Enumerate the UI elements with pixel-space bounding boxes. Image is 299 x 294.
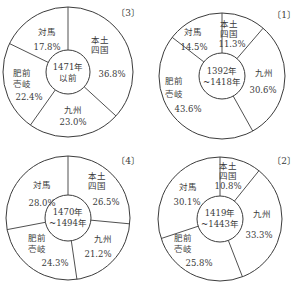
slice-value-hizen-iki: 43.6% [174,104,201,114]
slice-label-honshu-shikoku: 本土 [219,161,237,171]
slice-value-tsushima: 30.1% [173,197,200,207]
slice-label-hizen-iki: 肥前 [13,68,31,78]
slice-value-kyushu: 23.0% [59,117,86,127]
panel-label: 〔4〕 [116,156,140,166]
donut-inner-ring [199,53,245,99]
center-label-line1: 1392年 [207,66,238,76]
center-label-line2: ~1443年 [201,219,239,229]
panel-label: 〔3〕 [116,8,140,18]
center-label-line1: 1419年 [205,208,236,218]
slice-value-tsushima: 28.0% [28,198,55,208]
donut-chart-grid: 〔3〕 1471年 以前 本土 四国 36.8% 九州 23.0% 肥前 壱岐 … [0,0,299,294]
center-label-line1: 1471年 [53,62,84,72]
slice-label-tsushima: 対馬 [33,180,51,190]
slice-label-hizen-iki-2: 壱岐 [13,79,31,89]
slice-label-hizen-iki: 肥前 [174,233,192,243]
slice-label-tsushima: 対馬 [38,27,56,37]
slice-divider [7,222,45,229]
chart-panel-4: 〔4〕 1470年 ~1494年 本土 四国 26.5% 九州 21.2% 肥前… [6,156,140,280]
center-label-line1: 1470年 [53,207,84,217]
slice-label-honshu-shikoku-2: 四国 [88,181,106,191]
slice-label-honshu-shikoku-2: 四国 [220,29,238,39]
center-label-line2: ~1494年 [49,218,87,228]
slice-value-honshu-shikoku: 11.3% [218,39,245,49]
slice-label-honshu-shikoku-2: 四国 [91,45,109,55]
donut-inner-ring [46,50,90,94]
slice-label-kyushu: 九州 [64,105,82,115]
slice-value-hizen-iki: 24.3% [41,258,68,268]
panel-label: 〔2〕 [272,156,296,166]
slice-label-hizen-iki-2: 壱岐 [174,244,192,254]
center-label-line2: ~1418年 [203,77,241,87]
slice-value-kyushu: 21.2% [84,249,111,259]
slice-label-honshu-shikoku: 本土 [220,19,238,29]
slice-label-kyushu: 九州 [255,68,273,78]
slice-value-honshu-shikoku: 10.8% [214,181,241,191]
slice-label-tsushima: 対馬 [184,27,202,37]
slice-divider [71,241,77,280]
slice-value-hizen-iki: 22.4% [15,92,42,102]
slice-label-honshu-shikoku: 本土 [91,35,109,45]
slice-label-kyushu: 九州 [94,234,112,244]
panel-label: 〔1〕 [272,10,296,20]
slice-divider [233,96,252,131]
chart-panel-1: 〔1〕 1392年 ~1418年 本土 四国 11.3% 九州 30.6% 肥前… [159,10,296,139]
slice-label-honshu-shikoku: 本土 [88,171,106,181]
slice-value-honshu-shikoku: 36.8% [98,69,125,79]
slice-label-hizen-iki: 肥前 [165,76,183,86]
slice-label-hizen-iki: 肥前 [28,233,46,243]
slice-value-tsushima: 17.8% [33,42,60,52]
slice-label-hizen-iki-2: 壱岐 [28,244,46,254]
chart-panel-2: 〔2〕 1419年 ~1443年 本土 四国 10.8% 九州 33.3% 肥前… [158,156,296,281]
slice-divider [84,87,116,116]
slice-value-honshu-shikoku: 26.5% [92,197,119,207]
slice-label-honshu-shikoku-2: 四国 [219,171,237,181]
slice-divider [91,220,130,224]
slice-value-kyushu: 33.3% [245,230,272,240]
center-label-line2: 以前 [59,73,77,83]
slice-value-kyushu: 30.6% [249,85,276,95]
slice-label-kyushu: 九州 [253,209,271,219]
slice-value-hizen-iki: 25.8% [185,258,212,268]
slice-divider [228,240,242,276]
slice-value-tsushima: 14.5% [180,42,207,52]
slice-label-hizen-iki-2: 壱岐 [165,89,183,99]
chart-panel-3: 〔3〕 1471年 以前 本土 四国 36.8% 九州 23.0% 肥前 壱岐 … [3,7,140,137]
slice-label-tsushima: 対馬 [179,182,197,192]
